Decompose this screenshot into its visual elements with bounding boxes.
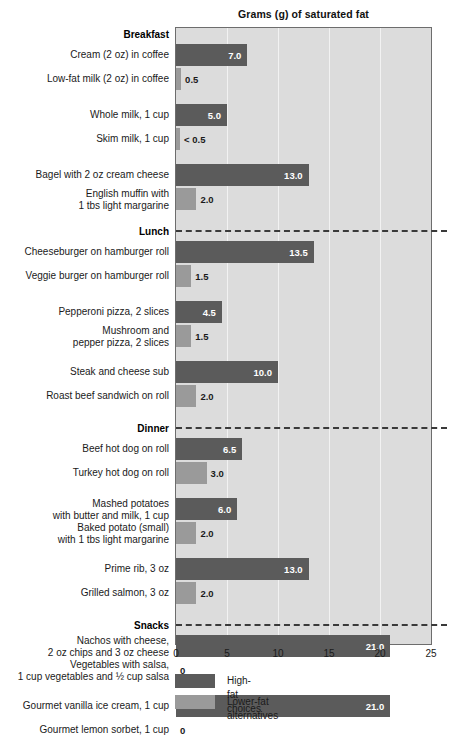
bar-category-label: Bagel with 2 oz cream cheese [36, 169, 169, 181]
bar-value-label: 1.5 [195, 271, 208, 282]
bar-row: 0Gourmet lemon sorbet, 1 cup [0, 719, 449, 739]
bar-category-label: Baked potato (small) with 1 tbs light ma… [58, 522, 169, 545]
bar-category-label: Gourmet vanilla ice cream, 1 cup [23, 700, 169, 712]
bar-value-label: 2.0 [200, 194, 213, 205]
x-axis-ticks: 0510152025 [175, 648, 432, 662]
group-heading-dinner: Dinner [0, 423, 169, 434]
bar-value-label: 2.0 [200, 391, 213, 402]
bar-value-label: 5.0 [208, 110, 221, 121]
x-tick-0: 0 [173, 648, 179, 659]
group-divider [176, 624, 447, 626]
bar-lower-fat[interactable] [176, 462, 207, 484]
bar-value-label: < 0.5 [184, 134, 205, 145]
legend-swatch-low [175, 695, 215, 709]
bar-category-label: Prime rib, 3 oz [105, 563, 169, 575]
legend-label: Lower-fat alternatives [227, 695, 278, 723]
group-heading-snacks: Snacks [0, 620, 169, 631]
bar-row: 0Vegetables with salsa, 1 cup vegetables… [0, 659, 449, 681]
bar-row: 2.0Baked potato (small) with 1 tbs light… [0, 522, 449, 544]
bar-row: 2.0Roast beef sandwich on roll [0, 385, 449, 407]
bar-value-label: 0.5 [185, 74, 198, 85]
group-heading-lunch: Lunch [0, 226, 169, 237]
bars-layer: Breakfast7.0Cream (2 oz) in coffee0.5Low… [0, 27, 449, 645]
bar-category-label: Gourmet lemon sorbet, 1 cup [39, 724, 169, 736]
bar-row: 13.5Cheeseburger on hamburger roll [0, 241, 449, 263]
bar-value-label: 2.0 [200, 528, 213, 539]
bar-value-label: 1.5 [195, 331, 208, 342]
bar-row: < 0.5Skim milk, 1 cup [0, 128, 449, 150]
bar-lower-fat[interactable] [176, 582, 196, 604]
bar-lower-fat[interactable] [176, 188, 196, 210]
bar-value-label: 13.0 [284, 170, 303, 181]
bar-value-label: 0 [180, 725, 185, 736]
bar-value-label: 13.5 [289, 247, 308, 258]
bar-row: 13.0Prime rib, 3 oz [0, 558, 449, 580]
bar-row: 2.0English muffin with 1 tbs light marga… [0, 188, 449, 210]
bar-category-label: Pepperoni pizza, 2 slices [58, 306, 169, 318]
bar-value-label: 7.0 [228, 50, 241, 61]
bar-category-label: Vegetables with salsa, 1 cup vegetables … [18, 659, 169, 682]
bar-lower-fat[interactable] [176, 325, 191, 347]
bar-row: 6.5Beef hot dog on roll [0, 438, 449, 460]
bar-row: 3.0Turkey hot dog on roll [0, 462, 449, 484]
bar-row: 7.0Cream (2 oz) in coffee [0, 44, 449, 66]
bar-value-label: 21.0 [366, 701, 385, 712]
group-divider [176, 427, 447, 429]
legend-swatch-high [175, 674, 215, 688]
bar-category-label: Steak and cheese sub [70, 366, 169, 378]
chart-title: Grams (g) of saturated fat [175, 8, 432, 20]
bar-row: 1.5Mushroom and pepper pizza, 2 slices [0, 325, 449, 347]
bar-category-label: Turkey hot dog on roll [73, 467, 169, 479]
bar-category-label: Low-fat milk (2 oz) in coffee [47, 73, 169, 85]
bar-row: 4.5Pepperoni pizza, 2 slices [0, 301, 449, 323]
bar-row: 1.5Veggie burger on hamburger roll [0, 265, 449, 287]
bar-value-label: 2.0 [200, 588, 213, 599]
x-tick-20: 20 [374, 648, 385, 659]
bar-row: 21.0Gourmet vanilla ice cream, 1 cup [0, 695, 449, 717]
bar-category-label: Cream (2 oz) in coffee [70, 49, 169, 61]
bar-category-label: Roast beef sandwich on roll [46, 390, 169, 402]
group-heading-breakfast: Breakfast [0, 29, 169, 40]
bar-value-label: 13.0 [284, 564, 303, 575]
x-tick-25: 25 [425, 648, 436, 659]
bar-lower-fat[interactable] [176, 522, 196, 544]
x-tick-5: 5 [224, 648, 230, 659]
bar-row: 2.0Grilled salmon, 3 oz [0, 582, 449, 604]
bar-category-label: Grilled salmon, 3 oz [81, 587, 169, 599]
x-tick-15: 15 [323, 648, 334, 659]
bar-value-label: 10.0 [254, 367, 273, 378]
bar-category-label: English muffin with 1 tbs light margarin… [78, 188, 169, 211]
bar-category-label: Nachos with cheese, 2 oz chips and 3 oz … [48, 635, 169, 658]
bar-value-label: 4.5 [203, 307, 216, 318]
bar-value-label: 6.0 [218, 504, 231, 515]
bar-category-label: Whole milk, 1 cup [90, 109, 169, 121]
group-divider [176, 230, 447, 232]
bar-row: 5.0Whole milk, 1 cup [0, 104, 449, 126]
bar-lower-fat[interactable] [176, 128, 180, 150]
bar-category-label: Veggie burger on hamburger roll [26, 270, 169, 282]
bar-category-label: Beef hot dog on roll [82, 443, 169, 455]
bar-row: 13.0Bagel with 2 oz cream cheese [0, 164, 449, 186]
bar-category-label: Mushroom and pepper pizza, 2 slices [73, 325, 169, 348]
bar-row: 0.5Low-fat milk (2 oz) in coffee [0, 68, 449, 90]
x-tick-10: 10 [272, 648, 283, 659]
bar-value-label: 3.0 [211, 468, 224, 479]
bar-category-label: Mashed potatoes with butter and milk, 1 … [53, 498, 169, 521]
bar-category-label: Skim milk, 1 cup [96, 133, 169, 145]
bar-lower-fat[interactable] [176, 385, 196, 407]
bar-row: 6.0Mashed potatoes with butter and milk,… [0, 498, 449, 520]
bar-row: 10.0Steak and cheese sub [0, 361, 449, 383]
bar-value-label: 6.5 [223, 444, 236, 455]
bar-lower-fat[interactable] [176, 265, 191, 287]
bar-category-label: Cheeseburger on hamburger roll [24, 246, 169, 258]
bar-lower-fat[interactable] [176, 68, 181, 90]
